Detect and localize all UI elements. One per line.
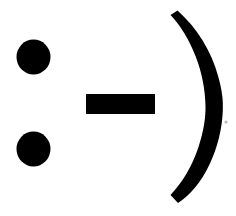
hyphen-nose <box>86 94 155 114</box>
hyphen-nose-group <box>86 94 155 114</box>
emoticon-canvas: :-) <box>0 0 236 216</box>
scan-speck-artifact <box>224 120 227 123</box>
upper-eye-dot <box>17 40 51 75</box>
emoticon-artwork <box>0 0 236 216</box>
lower-eye-dot <box>17 132 51 167</box>
